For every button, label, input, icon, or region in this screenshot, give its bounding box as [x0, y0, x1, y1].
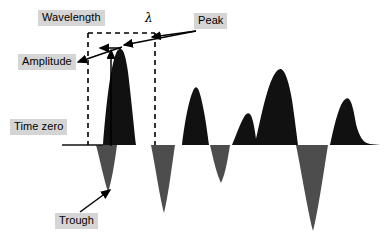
- trough-region: [62, 145, 389, 231]
- label-trough: Trough: [55, 213, 98, 229]
- label-wavelength: Wavelength: [38, 10, 105, 26]
- peak-shape: [103, 49, 136, 145]
- label-time-zero: Time zero: [10, 119, 67, 135]
- label-amplitude: Amplitude: [18, 54, 76, 70]
- peak-shape: [182, 87, 209, 145]
- trough-shape: [62, 145, 389, 231]
- peak-shape: [232, 69, 298, 145]
- trough-leader-arrow: [80, 190, 110, 212]
- wave-diagram-figure: Wavelength λ Amplitude Time zero Trough …: [0, 0, 389, 243]
- peak-shape: [330, 98, 389, 145]
- label-wavelength-symbol: λ: [145, 12, 153, 24]
- label-peak: Peak: [194, 13, 227, 29]
